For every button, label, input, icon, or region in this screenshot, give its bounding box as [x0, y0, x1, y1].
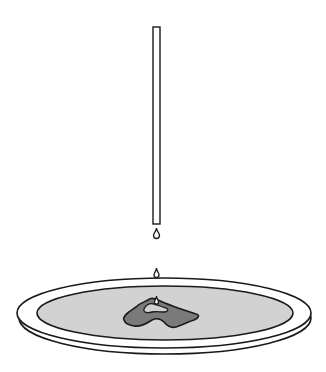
pipette [153, 27, 160, 224]
falling-droplet-icon [154, 228, 160, 239]
diagram-canvas [0, 0, 326, 372]
rim-droplet-icon [154, 268, 159, 278]
